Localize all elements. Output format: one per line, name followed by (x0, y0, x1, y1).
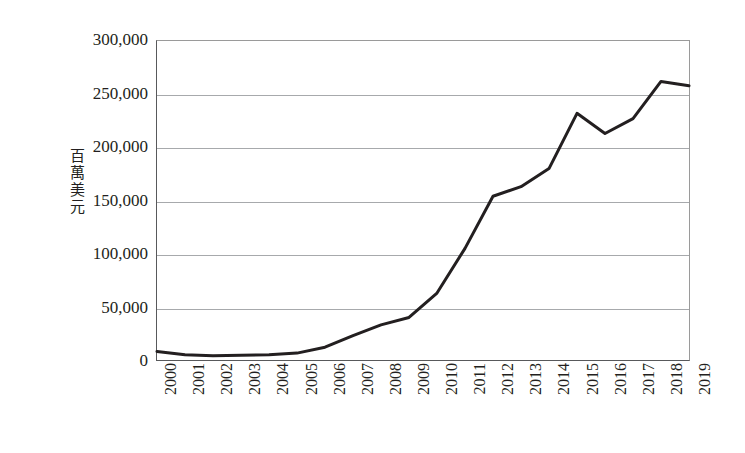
x-axis-tick-label: 2009 (415, 363, 433, 395)
x-axis-tick-label: 2005 (303, 363, 321, 395)
x-axis-tick-label: 2001 (190, 363, 208, 395)
y-axis-tick-label: 250,000 (48, 84, 148, 104)
x-axis-tick-label: 2011 (471, 363, 489, 394)
x-axis-tick-label: 2014 (555, 363, 573, 395)
y-axis-tick-label: 100,000 (48, 244, 148, 264)
x-axis-tick-label: 2008 (387, 363, 405, 395)
x-axis-tick-label: 2010 (443, 363, 461, 395)
y-axis-tick-labels: 050,000100,000150,000200,000250,000300,0… (48, 0, 148, 453)
y-axis-tick-label: 300,000 (48, 30, 148, 50)
series-line (157, 81, 689, 355)
y-axis-tick-label: 150,000 (48, 191, 148, 211)
line-chart: 百 萬 美 元 050,000100,000150,000200,000250,… (0, 0, 745, 453)
x-axis-tick-label: 2007 (359, 363, 377, 395)
x-axis-tick-label: 2004 (274, 363, 292, 395)
y-axis-tick-label: 0 (48, 351, 148, 371)
series-line-layer (157, 41, 689, 360)
x-axis-tick-label: 2018 (668, 363, 686, 395)
x-axis-tick-label: 2006 (331, 363, 349, 395)
x-axis-tick-label: 2016 (612, 363, 630, 395)
x-axis-tick-labels: 2000200120022003200420052006200720082009… (156, 363, 690, 449)
y-axis-tick-label: 200,000 (48, 137, 148, 157)
x-axis-tick-label: 2000 (162, 363, 180, 395)
x-axis-tick-label: 2017 (640, 363, 658, 395)
x-axis-tick-label: 2012 (499, 363, 517, 395)
x-axis-tick-label: 2003 (246, 363, 264, 395)
y-axis-tick-label: 50,000 (48, 298, 148, 318)
x-axis-tick-label: 2019 (696, 363, 714, 395)
x-axis-tick-label: 2015 (584, 363, 602, 395)
x-axis-tick-label: 2002 (218, 363, 236, 395)
x-axis-tick-label: 2013 (527, 363, 545, 395)
plot-area (156, 40, 690, 361)
